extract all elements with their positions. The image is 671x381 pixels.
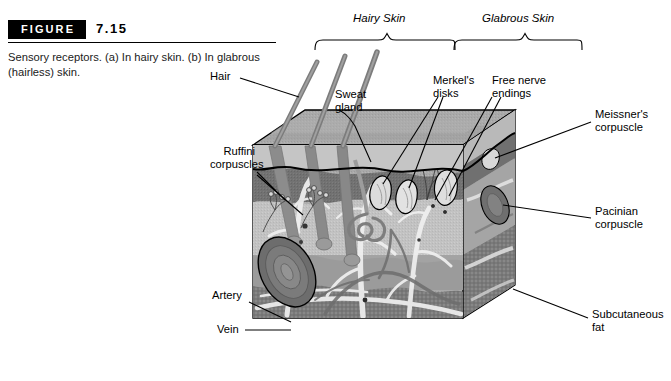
label-artery: Artery: [212, 289, 242, 302]
label-vein: Vein: [217, 323, 239, 336]
label-free-nerve-endings: Free nerve endings: [492, 74, 546, 100]
leader-pacinian: [503, 205, 591, 218]
brace-hairy-skin: [315, 34, 455, 51]
figure-number: 7.15: [96, 21, 128, 36]
label-subcutaneous-fat: Subcutaneous fat: [592, 308, 664, 334]
label-meissners-corpuscle: Meissner's corpuscle: [595, 108, 648, 134]
figure-page: FIGURE 7.15 Sensory receptors. (a) In ha…: [0, 0, 671, 381]
label-merkels-disks: Merkel's disks: [433, 74, 474, 100]
skin-cross-section-diagram: Hairy Skin Glabrous Skin Hair Sweat glan…: [195, 0, 671, 381]
block-side-face: [463, 110, 515, 318]
label-sweat-gland: Sweat gland: [335, 88, 366, 114]
block-front-face: [247, 145, 463, 318]
leader-subcutaneous-fat: [513, 289, 588, 318]
leader-hair: [240, 78, 299, 97]
brace-glabrous-skin: [454, 34, 582, 51]
label-hair: Hair: [210, 70, 231, 83]
figure-badge: FIGURE: [8, 20, 86, 39]
label-glabrous-skin: Glabrous Skin: [482, 12, 554, 25]
label-ruffini-corpuscles: Ruffini corpuscles: [210, 145, 255, 171]
label-hairy-skin: Hairy Skin: [353, 12, 405, 25]
label-pacinian-corpuscle: Pacinian corpuscle: [595, 205, 643, 231]
